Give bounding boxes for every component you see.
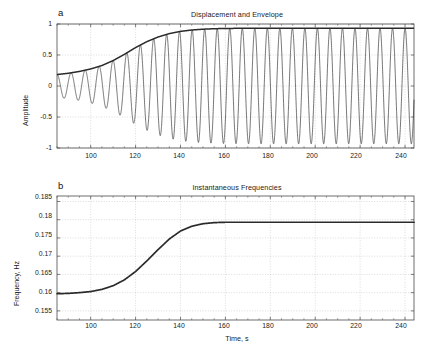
panel-b-plot — [0, 176, 431, 352]
panel-displacement-and-envelope: a Displacement and Envelope Amplitude 1 … — [0, 0, 431, 176]
figure-container: a Displacement and Envelope Amplitude 1 … — [0, 0, 431, 352]
panel-a-plot — [0, 0, 431, 176]
panel-instantaneous-frequencies: b Instantaneous Frequencies Frequency, H… — [0, 176, 431, 352]
